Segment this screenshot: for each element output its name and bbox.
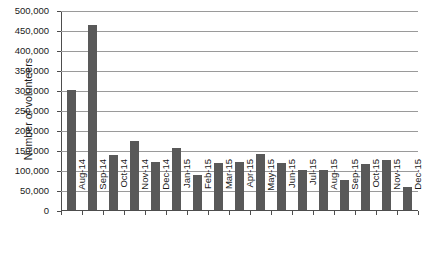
x-axis-tick-mark — [145, 211, 146, 215]
y-axis-tick-label: 400,000 — [0, 45, 49, 56]
y-axis-tick-label: 250,000 — [0, 105, 49, 116]
x-axis-tick-label: Nov-15 — [391, 159, 402, 223]
bar — [151, 162, 160, 210]
x-axis-tick-label: Apr-15 — [244, 159, 255, 223]
y-axis-tick-mark — [57, 151, 61, 152]
gridline — [61, 151, 418, 152]
x-axis-tick-mark — [334, 211, 335, 215]
x-axis-tick-label: Aug-14 — [76, 159, 87, 223]
x-axis-tick-label: Feb-15 — [202, 159, 213, 223]
bar — [193, 175, 202, 210]
x-axis-tick-label: May-15 — [265, 159, 276, 223]
y-axis-tick-label: 100,000 — [0, 165, 49, 176]
bar-chart: Number of volunteers 050,000100,000150,0… — [0, 0, 425, 261]
y-axis-tick-label: 350,000 — [0, 65, 49, 76]
gridline — [61, 91, 418, 92]
y-axis-tick-mark — [57, 111, 61, 112]
bar — [235, 162, 244, 210]
plot-area: 050,000100,000150,000200,000250,000300,0… — [61, 11, 418, 211]
bar — [319, 170, 328, 210]
x-axis-line — [61, 210, 418, 211]
gridline — [61, 51, 418, 52]
y-axis-tick-mark — [57, 131, 61, 132]
x-axis-tick-label: Jun-15 — [286, 159, 297, 223]
x-axis-tick-label: Jul-15 — [307, 159, 318, 223]
x-axis-tick-label: Dec-15 — [412, 159, 423, 223]
x-axis-tick-label: Sep-15 — [349, 159, 360, 223]
x-axis-tick-mark — [82, 211, 83, 215]
x-axis-tick-label: Oct-14 — [118, 159, 129, 223]
gridline — [61, 111, 418, 112]
y-axis-tick-label: 150,000 — [0, 145, 49, 156]
y-axis-tick-label: 200,000 — [0, 125, 49, 136]
bar — [403, 187, 412, 210]
bar — [382, 160, 391, 210]
y-axis-tick-mark — [57, 51, 61, 52]
x-axis-tick-mark — [103, 211, 104, 215]
y-axis-tick-mark — [57, 191, 61, 192]
x-axis-tick-label: Mar-15 — [223, 159, 234, 223]
y-axis-tick-mark — [57, 11, 61, 12]
y-axis-tick-label: 50,000 — [0, 185, 49, 196]
x-axis-tick-mark — [355, 211, 356, 215]
x-axis-tick-mark — [124, 211, 125, 215]
bar — [130, 141, 139, 210]
bar — [361, 164, 370, 210]
y-axis-tick-mark — [57, 91, 61, 92]
bar — [256, 154, 265, 210]
bar — [214, 163, 223, 210]
gridline — [61, 11, 418, 12]
x-axis-tick-label: Dec-14 — [160, 159, 171, 223]
gridline — [61, 71, 418, 72]
x-axis-tick-mark — [187, 211, 188, 215]
gridline — [61, 31, 418, 32]
y-axis-tick-mark — [57, 31, 61, 32]
bar — [277, 163, 286, 210]
x-axis-tick-mark — [418, 211, 419, 215]
x-axis-tick-mark — [292, 211, 293, 215]
bar — [340, 180, 349, 210]
bar — [88, 25, 97, 210]
x-axis-tick-label: Oct-15 — [370, 159, 381, 223]
x-axis-tick-label: Aug-15 — [328, 159, 339, 223]
x-axis-tick-label: Sep-14 — [97, 159, 108, 223]
y-axis-tick-mark — [57, 171, 61, 172]
x-axis-tick-mark — [61, 211, 62, 215]
x-axis-tick-label: Jan-15 — [181, 159, 192, 223]
y-axis-tick-mark — [57, 71, 61, 72]
x-axis-tick-mark — [376, 211, 377, 215]
bar — [67, 90, 76, 210]
x-axis-tick-mark — [271, 211, 272, 215]
x-axis-tick-mark — [397, 211, 398, 215]
x-axis-tick-mark — [313, 211, 314, 215]
x-axis-tick-mark — [229, 211, 230, 215]
x-axis-tick-label: Nov-14 — [139, 159, 150, 223]
bar — [172, 148, 181, 210]
x-axis-tick-mark — [208, 211, 209, 215]
gridline — [61, 131, 418, 132]
y-axis-tick-label: 450,000 — [0, 25, 49, 36]
bar — [298, 170, 307, 210]
x-axis-tick-mark — [250, 211, 251, 215]
x-axis-tick-mark — [166, 211, 167, 215]
y-axis-tick-label: 0 — [0, 205, 49, 216]
bar — [109, 155, 118, 210]
y-axis-tick-label: 500,000 — [0, 5, 49, 16]
y-axis-tick-label: 300,000 — [0, 85, 49, 96]
